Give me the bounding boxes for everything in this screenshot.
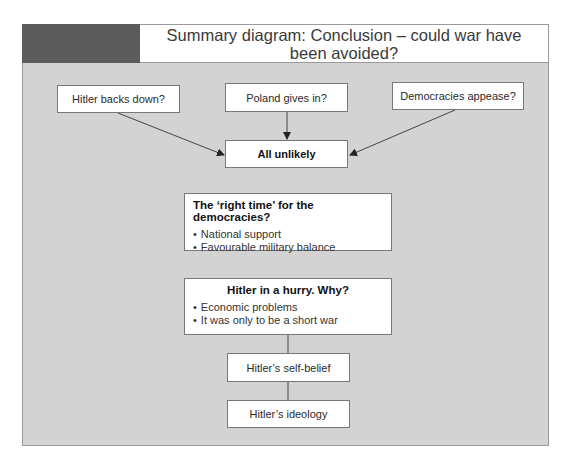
node-hitler-backs-down: Hitler backs down? — [57, 85, 180, 113]
node-title: The ‘right time’ for the democracies? — [193, 199, 383, 223]
node-self-belief: Hitler’s self-belief — [227, 353, 350, 382]
arrow-democracies-to-unlikely — [350, 110, 455, 155]
bullet-item: Favourable military balance — [193, 241, 383, 254]
node-title: Hitler in a hurry. Why? — [193, 284, 383, 296]
node-label: All unlikely — [257, 148, 315, 160]
node-all-unlikely: All unlikely — [225, 140, 348, 168]
node-label: Hitler backs down? — [72, 93, 165, 105]
node-label: Hitler’s ideology — [250, 408, 328, 420]
node-label: Hitler’s self-belief — [247, 362, 331, 374]
bullet-item: Economic problems — [193, 301, 383, 314]
bullet-list: Economic problems It was only to be a sh… — [193, 301, 383, 327]
node-label: Poland gives in? — [246, 92, 327, 104]
node-right-time: The ‘right time’ for the democracies? Na… — [184, 193, 392, 251]
node-ideology: Hitler’s ideology — [227, 400, 350, 428]
node-poland-gives-in: Poland gives in? — [225, 83, 348, 112]
bullet-list: National support Favourable military bal… — [193, 228, 383, 254]
arrow-hitler-to-unlikely — [118, 113, 224, 155]
bullet-item: It was only to be a short war — [193, 314, 383, 327]
bullet-item: National support — [193, 228, 383, 241]
node-label: Democracies appease? — [400, 90, 516, 102]
node-hitler-in-a-hurry: Hitler in a hurry. Why? Economic problem… — [184, 278, 392, 335]
node-democracies-appease: Democracies appease? — [392, 82, 524, 110]
